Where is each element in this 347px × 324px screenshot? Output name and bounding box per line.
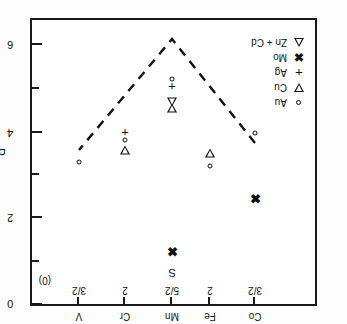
triangle-down-marker [205,149,215,158]
legend-cross-icon: ✖ [293,52,305,64]
legend-plus-icon: + [293,67,305,79]
x-tick-cr [123,297,125,306]
y-tick-minor-5 [32,87,39,89]
legend-item-zncd: Zn + Cd [195,35,305,50]
y-tick-major-2 [32,216,42,218]
x-label-spin-v: 3/2 [59,285,99,296]
data-point-cu-fe [205,149,215,158]
legend-circle-icon [293,97,305,109]
data-point-au-co [253,131,258,136]
legend-item-ag: + Ag [195,65,305,80]
x-label-spin-fe: 2 [190,285,230,296]
data-point-mo-mn: ✖ [167,247,178,255]
x-tick-co [253,297,255,306]
x-label-spin-co: 3/2 [235,285,275,296]
rotated-figure: 0 2 4 6 Peff (0) V Cr Mn Fe Co 3/2 2 5/2… [0,0,347,324]
y-tick-major-0 [32,303,42,305]
legend-item-cu: Cu [195,80,305,95]
data-point-ag-cr: + [121,128,129,136]
y-label-4: 4 [7,127,27,139]
circle-marker [77,160,82,165]
x-tick-mn [170,297,172,306]
x-label-spin-mn: 5/2 [152,285,192,296]
legend-label-ag: Ag [275,67,287,78]
x-label-element-v: V [59,311,99,322]
figure-root: 0 2 4 6 Peff (0) V Cr Mn Fe Co 3/2 2 5/2… [0,0,347,324]
origin-annotation: (0) [39,275,51,286]
legend-label-cu: Cu [274,82,287,93]
data-point-au-fe [208,164,213,169]
legend-label-zncd: Zn + Cd [251,37,287,48]
y-tick-minor-3 [32,173,39,175]
x-label-element-mn: Mn [152,311,192,322]
y-axis-title: Peff [0,148,7,165]
x-label-element-co: Co [235,311,275,322]
data-point-zncd-mn [167,98,177,107]
triangle-up-marker [167,98,177,107]
data-point-mo-co: ✖ [250,194,261,202]
y-axis-title-main: P [0,148,7,156]
y-tick-minor-1 [32,260,39,262]
y-label-0: 0 [7,298,27,310]
legend: Au Cu + Ag ✖ Mo [195,35,305,110]
circle-marker [208,164,213,169]
x-tick-fe [208,297,210,306]
x-axis-title: S [157,267,187,279]
legend-triangle-down-icon [293,82,305,94]
data-point-ag-mn: + [168,82,176,90]
y-label-2: 2 [7,212,27,224]
legend-label-mo: Mo [273,52,287,63]
triangle-down-marker [120,146,130,155]
x-label-element-cr: Cr [105,311,145,322]
y-label-6: 6 [7,39,27,51]
x-tick-v [77,297,79,306]
x-label-spin-cr: 2 [105,285,145,296]
data-point-au-v [77,160,82,165]
legend-item-au: Au [195,95,305,110]
legend-triangle-up-icon [293,37,305,49]
y-tick-major-6 [32,43,42,45]
y-tick-major-4 [32,131,42,133]
x-label-element-fe: Fe [190,311,230,322]
legend-item-mo: ✖ Mo [195,50,305,65]
data-point-cu-cr [120,146,130,155]
legend-label-au: Au [275,97,287,108]
circle-marker [253,131,258,136]
